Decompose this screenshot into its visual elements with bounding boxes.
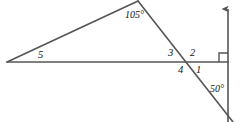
angle-label-3: 3 bbox=[168, 48, 173, 59]
angle-label-1: 1 bbox=[196, 65, 201, 76]
right-angle-marker bbox=[219, 53, 228, 62]
geometry-canvas bbox=[0, 0, 243, 122]
angle-label-105: 105° bbox=[125, 10, 144, 20]
angle-label-5: 5 bbox=[38, 50, 43, 61]
angle-label-50: 50° bbox=[210, 84, 224, 94]
triangle-left-side bbox=[7, 1, 138, 62]
geometry-figure: 105° 50° 1 2 3 4 5 bbox=[0, 0, 243, 122]
angle-label-2: 2 bbox=[190, 48, 195, 59]
angle-label-4: 4 bbox=[178, 65, 183, 76]
